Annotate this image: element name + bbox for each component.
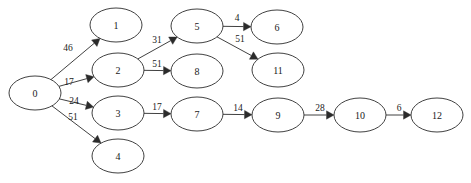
- arrowhead-icon: [243, 22, 251, 30]
- node-label: 6: [275, 22, 280, 33]
- edge-weight-label: 24: [69, 96, 79, 106]
- node-label: 2: [116, 65, 121, 76]
- graph-node-3[interactable]: 3: [92, 96, 144, 130]
- node-label: 4: [116, 151, 121, 162]
- arrowhead-icon: [93, 135, 102, 143]
- edge-weight-label: 14: [233, 103, 243, 113]
- node-label: 12: [432, 110, 442, 121]
- node-label: 1: [114, 20, 119, 31]
- edge-weight-label: 51: [235, 34, 245, 44]
- edge-weight-label: 4: [235, 13, 240, 23]
- node-label: 11: [273, 65, 283, 76]
- node-label: 5: [195, 21, 200, 32]
- edge-weight-label: 17: [64, 77, 74, 87]
- graph-diagram: 0123458761191012 4617245131514511714286: [0, 0, 471, 183]
- graph-svg: 0123458761191012 4617245131514511714286: [0, 0, 471, 183]
- edge-weight-label: 51: [152, 59, 162, 69]
- graph-node-6[interactable]: 6: [251, 10, 303, 44]
- edge-weight-label: 28: [315, 103, 325, 113]
- arrowhead-icon: [404, 111, 412, 119]
- arrowhead-icon: [327, 111, 335, 119]
- edge-weight-label: 46: [63, 43, 73, 53]
- arrowhead-icon: [163, 109, 171, 117]
- node-label: 3: [116, 108, 121, 119]
- graph-node-12[interactable]: 12: [411, 98, 463, 132]
- graph-node-2[interactable]: 2: [92, 53, 144, 87]
- edge-line: [52, 106, 95, 139]
- graph-node-4[interactable]: 4: [92, 139, 144, 173]
- arrowhead-icon: [163, 66, 171, 74]
- nodes-layer: 0123458761191012: [9, 8, 463, 173]
- graph-node-0[interactable]: 0: [9, 76, 61, 110]
- arrowhead-icon: [85, 101, 93, 109]
- edge-weight-label: 6: [397, 103, 402, 113]
- node-label: 10: [355, 110, 365, 121]
- graph-node-1[interactable]: 1: [90, 8, 142, 42]
- graph-node-8[interactable]: 8: [171, 54, 223, 88]
- node-label: 7: [195, 109, 200, 120]
- edge-line: [217, 37, 251, 56]
- graph-node-11[interactable]: 11: [252, 53, 304, 87]
- node-label: 8: [195, 66, 200, 77]
- edge-weight-label: 31: [152, 35, 162, 45]
- node-label: 0: [33, 88, 38, 99]
- arrowhead-icon: [92, 38, 100, 46]
- edge-weight-label: 17: [152, 102, 162, 112]
- graph-node-9[interactable]: 9: [252, 98, 304, 132]
- graph-node-5[interactable]: 5: [171, 9, 223, 43]
- arrowhead-icon: [86, 75, 94, 83]
- edge-weight-label: 51: [68, 112, 78, 122]
- graph-node-10[interactable]: 10: [334, 98, 386, 132]
- node-label: 9: [276, 110, 281, 121]
- graph-node-7[interactable]: 7: [171, 97, 223, 131]
- arrowhead-icon: [244, 110, 252, 118]
- edge-5-to-6: [223, 22, 251, 30]
